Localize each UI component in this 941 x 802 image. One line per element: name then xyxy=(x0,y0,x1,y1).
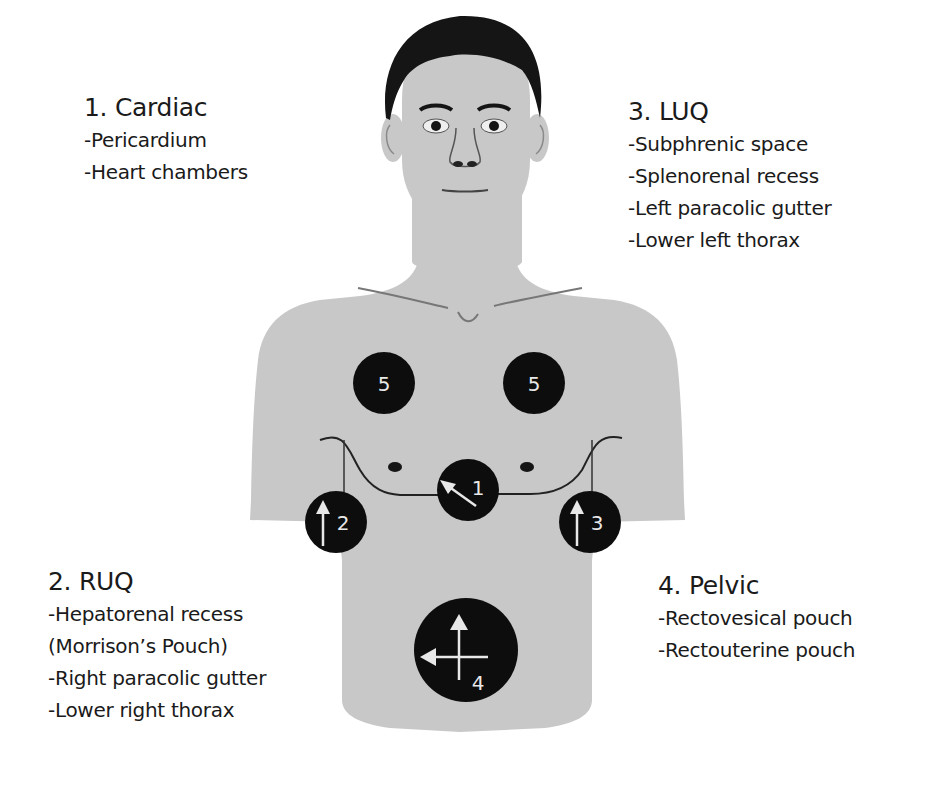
region-luq-label: 3. LUQ -Subphrenic space -Splenorenal re… xyxy=(628,96,831,256)
svg-text:1: 1 xyxy=(472,476,485,500)
right-ear xyxy=(381,114,405,162)
region-item: -Splenorenal recess xyxy=(628,160,831,192)
region-item: -Pericardium xyxy=(84,124,248,156)
region-item: -Right paracolic gutter xyxy=(48,662,266,694)
probe-3-luq: 3 xyxy=(559,491,621,553)
region-item: -Left paracolic gutter xyxy=(628,192,831,224)
probe-5-right: 5 xyxy=(353,352,415,414)
left-nipple xyxy=(520,462,534,472)
region-pelvic-label: 4. Pelvic -Rectovesical pouch -Rectouter… xyxy=(658,570,855,666)
region-ruq-label: 2. RUQ -Hepatorenal recess (Morrison’s P… xyxy=(48,566,266,726)
face xyxy=(402,36,530,230)
svg-text:2: 2 xyxy=(337,511,350,535)
svg-text:3: 3 xyxy=(591,511,604,535)
right-nipple xyxy=(388,462,402,472)
region-item: -Hepatorenal recess xyxy=(48,598,266,630)
region-item: -Heart chambers xyxy=(84,156,248,188)
region-cardiac-label: 1. Cardiac -Pericardium -Heart chambers xyxy=(84,92,248,188)
region-item: -Lower left thorax xyxy=(628,224,831,256)
probe-1-subxiphoid: 1 xyxy=(437,459,499,521)
svg-text:5: 5 xyxy=(378,372,391,396)
probe-4-pelvic: 4 xyxy=(414,598,518,702)
fast-exam-diagram: 5 5 1 2 3 xyxy=(0,0,941,802)
region-item: -Rectovesical pouch xyxy=(658,602,855,634)
region-title: 1. Cardiac xyxy=(84,92,248,124)
region-item: (Morrison’s Pouch) xyxy=(48,630,266,662)
region-title: 4. Pelvic xyxy=(658,570,855,602)
region-item: -Rectouterine pouch xyxy=(658,634,855,666)
svg-text:5: 5 xyxy=(528,372,541,396)
region-item: -Lower right thorax xyxy=(48,694,266,726)
probe-5-left: 5 xyxy=(503,352,565,414)
region-title: 3. LUQ xyxy=(628,96,831,128)
svg-text:4: 4 xyxy=(472,671,485,695)
region-item: -Subphrenic space xyxy=(628,128,831,160)
probe-2-ruq: 2 xyxy=(305,491,367,553)
region-title: 2. RUQ xyxy=(48,566,266,598)
